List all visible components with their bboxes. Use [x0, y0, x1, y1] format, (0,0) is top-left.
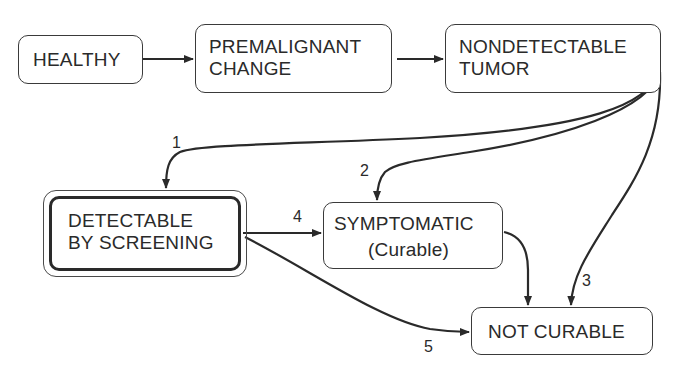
- node-detectable-label: DETECTABLE BY SCREENING: [68, 210, 214, 254]
- edge-label-1: 1: [172, 134, 181, 152]
- node-healthy-label: HEALTHY: [33, 49, 121, 71]
- edge-label-4: 4: [293, 208, 302, 226]
- edge-label-2: 2: [360, 162, 369, 180]
- node-healthy: HEALTHY: [18, 35, 143, 84]
- edge-label-3: 3: [582, 272, 591, 290]
- node-symptomatic: SYMPTOMATIC (Curable): [323, 202, 503, 269]
- node-nondetectable-label: NONDETECTABLE TUMOR: [459, 36, 627, 80]
- edge-label-5: 5: [424, 338, 433, 356]
- node-premalignant-label: PREMALIGNANT CHANGE: [209, 36, 361, 80]
- edge-symptomatic-not-curable: [504, 232, 528, 305]
- node-not-curable-label: NOT CURABLE: [488, 321, 625, 343]
- node-detectable-by-screening: DETECTABLE BY SCREENING: [49, 196, 241, 271]
- node-not-curable: NOT CURABLE: [471, 307, 653, 355]
- node-premalignant-change: PREMALIGNANT CHANGE: [195, 24, 392, 93]
- node-symptomatic-sublabel: (Curable): [368, 239, 449, 261]
- node-symptomatic-label: SYMPTOMATIC: [334, 213, 474, 235]
- node-nondetectable-tumor: NONDETECTABLE TUMOR: [445, 24, 661, 93]
